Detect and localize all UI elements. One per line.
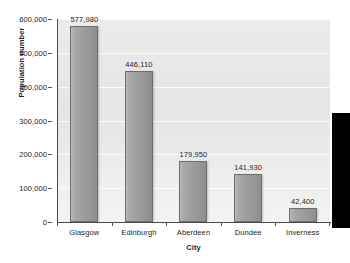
x-tick-label: Inverness	[286, 228, 319, 237]
edge-occlusion-block	[332, 113, 350, 228]
bar-slot: 42,400	[275, 19, 330, 222]
y-tick-label: 500,000	[19, 48, 47, 57]
x-axis-title: City	[57, 243, 330, 252]
bar-value-label: 577,980	[70, 15, 98, 24]
y-tick-label: 400,000	[19, 82, 47, 91]
x-tick-mark	[57, 222, 58, 226]
x-tick-mark	[166, 222, 167, 226]
y-tick-label: 300,000	[19, 116, 47, 125]
x-tick-mark	[112, 222, 113, 226]
y-tick-mark	[48, 154, 52, 155]
y-tick-label: 200,000	[19, 150, 47, 159]
x-tick-mark	[275, 222, 276, 226]
x-axis-labels: GlasgowEdinburghAberdeenDundeeInverness	[57, 228, 330, 242]
bar[interactable]	[70, 26, 98, 222]
bar-value-label: 446,110	[125, 60, 152, 69]
bar-slot: 577,980	[57, 19, 112, 222]
bar[interactable]	[289, 208, 317, 222]
y-tick-mark	[48, 222, 52, 223]
y-tick-mark	[48, 53, 52, 54]
x-tick-label: Aberdeen	[177, 228, 210, 237]
bar-slot: 446,110	[112, 19, 167, 222]
x-axis-ticks	[57, 222, 330, 227]
y-tick-mark	[48, 87, 52, 88]
bar-value-label: 179,950	[180, 150, 208, 159]
x-tick-mark	[329, 222, 330, 226]
x-tick-label: Edinburgh	[121, 228, 156, 237]
bar-value-label: 141,930	[234, 163, 262, 172]
bar-chart: Population number 0100,000200,000300,000…	[0, 0, 350, 263]
x-tick-label: Dundee	[235, 228, 262, 237]
y-tick-label: 100,000	[19, 184, 47, 193]
x-tick-mark	[221, 222, 222, 226]
y-axis-ticks: 0100,000200,000300,000400,000500,000600,…	[0, 19, 52, 222]
y-tick-label: 0	[43, 218, 47, 227]
y-tick-mark	[48, 188, 52, 189]
y-tick-mark	[48, 19, 52, 20]
bar-slot: 141,930	[221, 19, 276, 222]
bar-value-label: 42,400	[291, 197, 315, 206]
bar[interactable]	[125, 71, 153, 222]
bar-slot: 179,950	[166, 19, 221, 222]
bars-layer: 577,980446,110179,950141,93042,400	[57, 19, 330, 222]
y-tick-label: 600,000	[19, 15, 47, 24]
bar[interactable]	[179, 161, 207, 222]
x-tick-label: Glasgow	[69, 228, 99, 237]
bar[interactable]	[234, 174, 262, 222]
y-tick-mark	[48, 121, 52, 122]
